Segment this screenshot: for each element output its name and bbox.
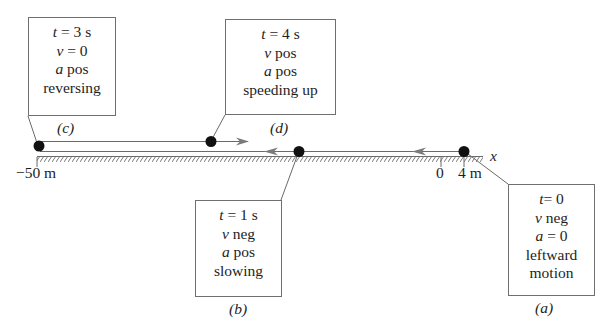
time-value: = 4 s	[266, 25, 300, 42]
state-box-b: t = 1 s v neg a pos slowing	[195, 200, 282, 297]
accel-value: = 0	[543, 227, 567, 244]
accel-var: a	[55, 60, 63, 77]
tick-label-0: 0	[436, 164, 444, 182]
velocity-value: = 0	[63, 42, 87, 59]
state-tag-c: (c)	[57, 119, 74, 137]
state-tag-b: (b)	[229, 300, 247, 318]
tick-label-4m: 4 m	[458, 164, 482, 182]
time-value: = 0	[543, 190, 563, 207]
particle-dot-a	[459, 146, 470, 157]
accel-value: pos	[63, 60, 88, 77]
state-box-c: t = 3 s v = 0 a pos reversing	[28, 17, 116, 116]
state-tag-d: (d)	[270, 119, 288, 137]
accel-value: pos	[230, 243, 255, 260]
state-description: leftward	[509, 246, 594, 265]
time-value: = 1 s	[224, 206, 258, 223]
tick-label-minus50: −50 m	[16, 164, 56, 182]
velocity-value: pos	[271, 44, 296, 61]
state-description-2: motion	[509, 264, 594, 283]
state-box-a: t= 0 v neg a = 0 leftward motion	[508, 184, 595, 296]
state-tag-a: (a)	[535, 299, 553, 317]
velocity-var: v	[222, 225, 229, 242]
accel-value: pos	[272, 62, 297, 79]
accel-var: a	[222, 243, 230, 260]
state-box-d: t = 4 s v pos a pos speeding up	[225, 19, 336, 115]
ground-hatch	[37, 157, 483, 163]
time-value: = 3 s	[57, 23, 91, 40]
state-description: slowing	[196, 262, 281, 281]
particle-dot-c	[34, 141, 45, 152]
velocity-value: neg	[229, 225, 255, 242]
state-description: reversing	[29, 79, 115, 98]
particle-dot-b	[294, 146, 305, 157]
axis-name: x	[490, 147, 497, 165]
particle-dot-d	[206, 136, 217, 147]
velocity-var: v	[535, 209, 542, 226]
velocity-value: neg	[542, 209, 568, 226]
accel-var: a	[264, 62, 272, 79]
state-description: speeding up	[226, 81, 335, 100]
